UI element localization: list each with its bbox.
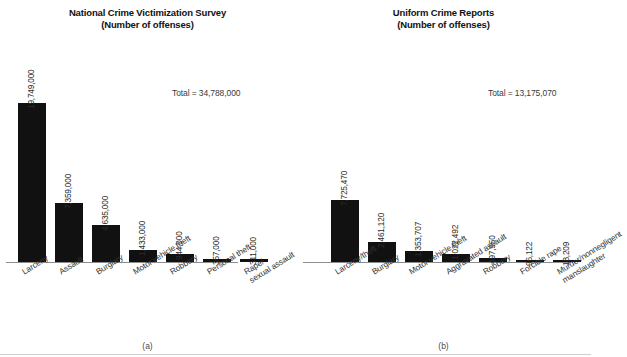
bar-value-a-3: 1,433,000	[137, 221, 147, 256]
bar-value-b-1: 2,461,120	[376, 213, 386, 248]
bar-value-b-2: 1,353,707	[413, 222, 423, 257]
bar-value-a-4: 944,000	[174, 231, 184, 260]
bar-value-a-0: 19,749,000	[26, 69, 36, 109]
bar-value-a-2: 4,635,000	[100, 196, 110, 231]
bar-b-0	[331, 200, 359, 262]
bars-layer	[0, 0, 591, 262]
bar-value-b-3: 1,022,492	[450, 225, 460, 260]
scan-edge-line	[0, 354, 591, 355]
bar-value-b-0: 7,725,470	[339, 171, 349, 206]
bar-a-0	[18, 103, 46, 262]
figure-caption-b: (b)	[296, 341, 591, 351]
bar-value-a-1: 7,359,000	[63, 174, 73, 209]
figure-caption-a: (a)	[0, 341, 295, 351]
